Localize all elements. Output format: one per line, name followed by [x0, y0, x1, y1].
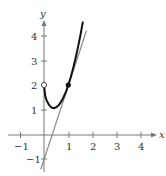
filled-point-marker — [66, 82, 71, 87]
y-tick-label: 1 — [31, 105, 37, 116]
y-axis-arrow-icon — [42, 20, 47, 26]
open-point-marker — [41, 82, 46, 87]
x-axis: x −1 1 2 3 4 — [8, 129, 165, 152]
y-tick-label: 3 — [31, 56, 37, 67]
x-tick-label: 4 — [138, 141, 144, 152]
y-tick-label: 2 — [31, 80, 37, 91]
x-tick-label: 1 — [66, 141, 72, 152]
y-axis-label: y — [39, 8, 46, 19]
x-axis-arrow-icon — [151, 133, 157, 138]
x-axis-label: x — [159, 129, 165, 140]
tangent-line — [41, 31, 87, 170]
y-tick-label: −1 — [26, 154, 41, 165]
x-tick-label: 3 — [114, 141, 120, 152]
function-curve — [44, 22, 83, 109]
chart: x −1 1 2 3 4 y 4 3 2 1 −1 — [0, 0, 166, 176]
x-tick-label: −1 — [14, 141, 29, 152]
y-tick-label: 4 — [31, 31, 37, 42]
x-tick-label: 2 — [90, 141, 96, 152]
